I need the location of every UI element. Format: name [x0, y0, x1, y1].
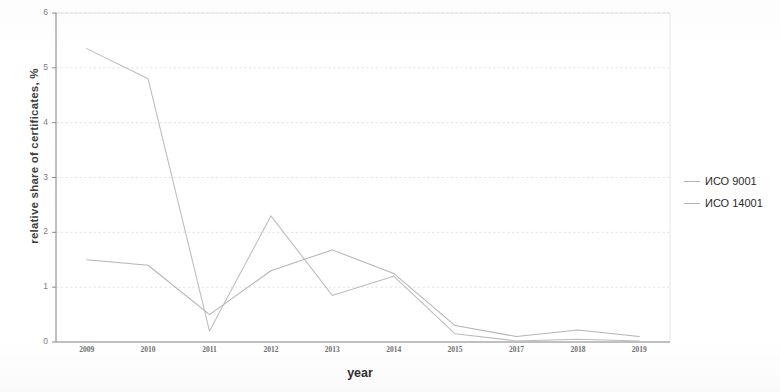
chart-figure: relative share of certificates, % year 6… — [0, 0, 780, 392]
legend-line-icon — [684, 203, 700, 204]
legend-item[interactable]: ИСО 9001 — [684, 170, 763, 192]
legend-item-label: ИСО 9001 — [705, 175, 757, 187]
plot-canvas — [0, 0, 780, 392]
legend-item[interactable]: ИСО 14001 — [684, 192, 763, 214]
series-line — [87, 250, 640, 337]
chart-legend: ИСО 9001 ИСО 14001 — [684, 170, 763, 214]
series-line — [87, 49, 640, 341]
legend-item-label: ИСО 14001 — [705, 197, 763, 209]
legend-line-icon — [684, 181, 700, 182]
